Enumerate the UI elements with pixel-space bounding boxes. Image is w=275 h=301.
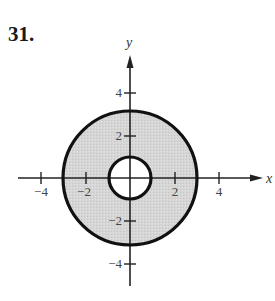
y-tick-label: −4 <box>108 256 122 271</box>
y-tick-label: 2 <box>116 128 123 143</box>
annulus-graph: x y −4 −2 2 4 4 2 −2 −4 <box>0 0 275 301</box>
y-tick-label: 4 <box>116 85 123 100</box>
x-tick-label: 2 <box>172 184 179 199</box>
x-axis-arrow-icon <box>250 175 263 182</box>
y-axis-arrow-icon <box>127 55 134 68</box>
x-tick-label: 4 <box>216 184 223 199</box>
x-tick-label: −2 <box>77 184 91 199</box>
y-tick-label: −2 <box>108 213 122 228</box>
x-tick-label: −4 <box>34 184 48 199</box>
y-axis-label: y <box>124 35 133 50</box>
x-axis-label: x <box>265 171 273 186</box>
